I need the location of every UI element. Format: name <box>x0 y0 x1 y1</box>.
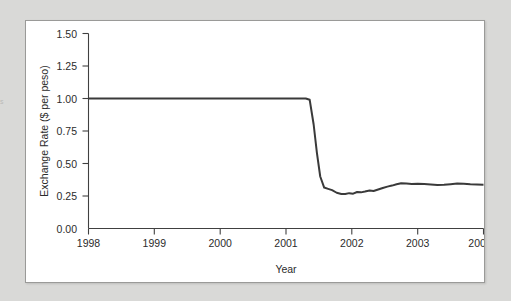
y-tick-label-1.25: 1.25 <box>57 60 78 72</box>
y-tick-label-0.00: 0.00 <box>57 223 78 235</box>
x-tick-label-2000: 2000 <box>209 237 233 249</box>
x-tick-label-2002: 2002 <box>340 237 364 249</box>
x-tick-label-2001: 2001 <box>274 237 298 249</box>
y-axis-ticks <box>83 34 89 197</box>
y-axis-title: Exchange Rate ($ per peso) <box>38 65 50 196</box>
y-tick-label-1.50: 1.50 <box>57 28 78 40</box>
x-tick-label-2003: 2003 <box>406 237 430 249</box>
y-tick-label-0.50: 0.50 <box>57 158 78 170</box>
y-axis-tick-labels: 1.50 1.25 1.00 0.75 0.50 0.25 0.00 <box>57 28 78 235</box>
x-tick-label-2004: 2004 <box>468 237 484 249</box>
x-tick-label-1999: 1999 <box>143 237 167 249</box>
x-axis-title: Year <box>275 263 297 275</box>
exchange-rate-series-line <box>89 99 484 195</box>
cropped-margin-text: s <box>0 96 7 168</box>
figure-panel: 1.50 1.25 1.00 0.75 0.50 0.25 0.00 19 <box>25 20 485 283</box>
page-background: s 1.50 1.25 1.00 0.75 0.50 0.2 <box>0 0 511 301</box>
y-tick-label-0.25: 0.25 <box>57 190 78 202</box>
y-tick-label-0.75: 0.75 <box>57 125 78 137</box>
x-axis-ticks <box>89 229 484 235</box>
exchange-rate-line-chart: 1.50 1.25 1.00 0.75 0.50 0.25 0.00 19 <box>26 21 484 282</box>
y-tick-label-1.00: 1.00 <box>57 93 78 105</box>
x-tick-label-1998: 1998 <box>77 237 101 249</box>
x-axis-tick-labels: 1998 1999 2000 2001 2002 2003 2004 <box>77 237 484 249</box>
